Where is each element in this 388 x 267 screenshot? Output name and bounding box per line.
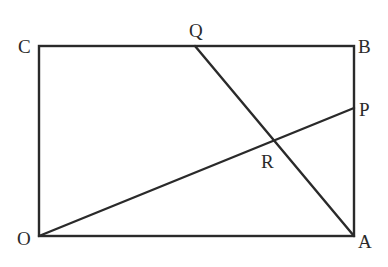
label-Q: Q [189,21,203,40]
segment-QA [195,46,354,236]
segment-OP [39,108,354,236]
label-R: R [261,152,274,171]
label-A: A [358,232,372,251]
label-B: B [358,37,371,56]
rectangle-OABC [39,46,354,236]
label-P: P [359,100,370,119]
label-C: C [18,37,31,56]
label-O: O [17,229,31,248]
